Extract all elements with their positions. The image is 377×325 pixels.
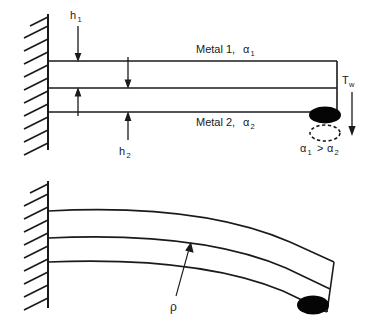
bimetallic-strip-curved: [48, 210, 334, 312]
figure-canvas: h 1 h 2 Metal 1,: [0, 0, 377, 325]
bimetallic-strip-figure: h 1 h 2 Metal 1,: [0, 0, 377, 325]
rho-annotation: ρ: [170, 242, 194, 314]
tw-label-subscript: w: [348, 80, 355, 89]
h2-label: h: [119, 145, 125, 157]
panel-undeflected: h 1 h 2 Metal 1,: [24, 9, 356, 160]
deflected-tip-marker: [297, 296, 329, 315]
metal-2-label: Metal 2,: [196, 116, 235, 128]
alpha-compare-first: α: [300, 142, 307, 154]
tw-label: T: [342, 74, 349, 86]
tip-deflection-arrowhead: [348, 126, 355, 136]
alpha-compare-second: α: [327, 142, 334, 154]
wall-hatching: [24, 17, 48, 155]
metal-2-alpha-symbol: α: [243, 116, 250, 128]
alpha-compare-second-subscript: 2: [335, 148, 339, 157]
metal-1-alpha-symbol: α: [243, 43, 250, 55]
rho-label: ρ: [170, 300, 177, 314]
curved-top-edge: [48, 210, 334, 262]
tip-marker-dashed: [310, 125, 340, 141]
metal-1-label-group: Metal 1, α 1: [196, 43, 255, 58]
bimetallic-bar-straight: [48, 61, 337, 112]
alpha-compare-operator: >: [317, 142, 323, 154]
tip-marker-solid: [309, 107, 341, 124]
tip-deflection-arrow: [348, 92, 355, 136]
rho-leader-line: [176, 249, 189, 296]
metal-1-label: Metal 1,: [196, 43, 235, 55]
alpha-compare-first-subscript: 1: [308, 148, 312, 157]
curved-interface-line: [48, 237, 330, 289]
wall-hatching-bottom: [24, 184, 48, 310]
h1-label-subscript: 1: [78, 15, 82, 24]
curved-bottom-edge: [48, 261, 327, 312]
metal-2-label-group: Metal 2, α 2: [196, 116, 255, 131]
alpha-comparison-group: α 1 > α 2: [300, 142, 339, 157]
metal-2-alpha-subscript: 2: [251, 122, 255, 131]
tw-label-group: T w: [342, 74, 355, 89]
h1-label: h: [70, 9, 76, 21]
dimension-h2: h 2: [119, 111, 131, 160]
h2-label-subscript: 2: [127, 151, 131, 160]
dimension-h1: h 1: [70, 9, 82, 62]
panel-deflected: ρ: [24, 181, 334, 315]
fixed-wall-bottom: [24, 181, 48, 310]
fixed-wall-top: [24, 14, 48, 155]
metal-1-alpha-subscript: 1: [251, 49, 255, 58]
